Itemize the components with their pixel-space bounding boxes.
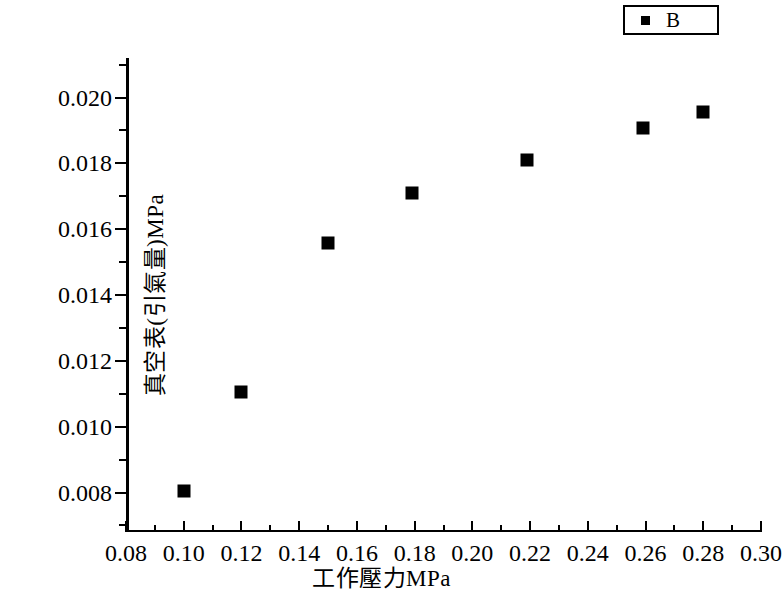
y-tick-minor	[119, 195, 126, 197]
legend-label-b: B	[666, 10, 680, 31]
y-tick-label: 0.008	[58, 481, 112, 505]
x-tick-major	[298, 521, 300, 532]
data-point	[322, 237, 335, 250]
y-tick-major	[115, 162, 126, 164]
y-tick-minor	[119, 327, 126, 329]
legend-entry-b: B	[625, 10, 680, 31]
y-axis-title: 真空表(引氣量)MPa	[136, 130, 170, 460]
y-tick-major	[115, 492, 126, 494]
x-tick-major	[240, 521, 242, 532]
x-tick-minor	[500, 525, 502, 532]
x-tick-major	[760, 521, 762, 532]
y-tick-major	[115, 97, 126, 99]
x-tick-minor	[616, 525, 618, 532]
y-tick-major	[115, 426, 126, 428]
data-point	[405, 186, 418, 199]
chart-legend: B	[623, 5, 719, 35]
y-tick-label: 0.020	[58, 86, 112, 110]
legend-square-marker-icon	[641, 16, 650, 25]
x-tick-major	[125, 521, 127, 532]
data-point	[636, 121, 649, 134]
x-tick-minor	[269, 525, 271, 532]
y-tick-minor	[119, 129, 126, 131]
x-tick-major	[183, 521, 185, 532]
x-tick-major	[587, 521, 589, 532]
x-tick-major	[645, 521, 647, 532]
x-tick-major	[702, 521, 704, 532]
y-tick-label: 0.012	[58, 349, 112, 373]
y-tick-label: 0.014	[58, 283, 112, 307]
y-tick-minor	[119, 459, 126, 461]
x-tick-major	[414, 521, 416, 532]
y-tick-label: 0.016	[58, 217, 112, 241]
y-tick-minor	[119, 393, 126, 395]
x-tick-minor	[558, 525, 560, 532]
data-point	[521, 154, 534, 167]
x-axis-title: 工作壓力MPa	[0, 559, 763, 593]
y-tick-major	[115, 294, 126, 296]
y-tick-minor	[119, 64, 126, 66]
x-tick-minor	[731, 525, 733, 532]
x-tick-minor	[327, 525, 329, 532]
plot-area: 0.0080.0100.0120.0140.0160.0180.020 0.08…	[126, 58, 783, 532]
x-tick-minor	[673, 525, 675, 532]
data-point	[697, 105, 710, 118]
x-tick-major	[471, 521, 473, 532]
data-point	[235, 386, 248, 399]
x-tick-minor	[385, 525, 387, 532]
y-tick-label: 0.018	[58, 151, 112, 175]
y-tick-major	[115, 360, 126, 362]
y-tick-major	[115, 228, 126, 230]
y-tick-label: 0.010	[58, 415, 112, 439]
y-tick-minor	[119, 261, 126, 263]
x-tick-minor	[443, 525, 445, 532]
x-tick-major	[356, 521, 358, 532]
x-tick-minor	[154, 525, 156, 532]
x-tick-minor	[212, 525, 214, 532]
y-axis-line	[126, 58, 129, 532]
x-tick-major	[529, 521, 531, 532]
data-point	[177, 484, 190, 497]
